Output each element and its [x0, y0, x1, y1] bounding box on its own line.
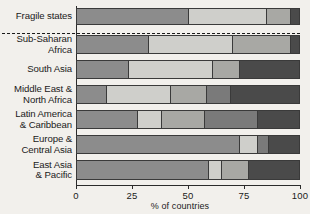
bar-segment[interactable]: [239, 61, 299, 78]
bar-segment[interactable]: [257, 136, 268, 153]
fragile-states-divider: [2, 33, 300, 34]
bar-segment[interactable]: [170, 86, 206, 103]
bar-segment[interactable]: [208, 161, 221, 179]
x-axis-title: % of countries: [0, 201, 310, 211]
bar-row[interactable]: [76, 160, 300, 180]
x-tick-75: [244, 185, 245, 189]
bar-segment[interactable]: [290, 36, 299, 53]
category-label: East Asia & Pacific: [33, 160, 72, 181]
bar-segment[interactable]: [77, 36, 148, 53]
bar-segment[interactable]: [161, 111, 203, 128]
bar-segment[interactable]: [232, 36, 290, 53]
bar-segment[interactable]: [268, 136, 299, 153]
bar-segment[interactable]: [239, 136, 257, 153]
bar-segment[interactable]: [77, 9, 188, 24]
bar-segment[interactable]: [230, 86, 299, 103]
x-tick-50: [188, 185, 189, 189]
bar-row[interactable]: [76, 8, 300, 25]
bar-segment[interactable]: [77, 161, 208, 179]
category-label: Europe & Central Asia: [21, 134, 72, 155]
bar-segment[interactable]: [212, 61, 239, 78]
x-tick-25: [132, 185, 133, 189]
bar-row[interactable]: [76, 135, 300, 154]
bar-segment[interactable]: [204, 111, 257, 128]
bar-segment[interactable]: [290, 9, 299, 24]
x-axis-title-text: % of countries: [151, 201, 209, 211]
stacked-bar-chart: 0255075100 Fragile statesSub-Saharan Afr…: [0, 0, 310, 214]
x-tick-label-0: 0: [73, 190, 78, 201]
x-tick-label-25: 25: [127, 190, 138, 201]
bar-segment[interactable]: [248, 161, 299, 179]
bar-row[interactable]: [76, 85, 300, 104]
category-label: South Asia: [27, 64, 72, 75]
bar-segment[interactable]: [77, 111, 137, 128]
category-label: Middle East & North Africa: [14, 84, 72, 105]
bar-row[interactable]: [76, 110, 300, 129]
bar-segment[interactable]: [77, 86, 106, 103]
x-tick-100: [300, 185, 301, 189]
x-tick-label-50: 50: [183, 190, 194, 201]
bar-segment[interactable]: [266, 9, 290, 24]
category-label: Latin America & Caribbean: [15, 109, 72, 130]
bar-segment[interactable]: [128, 61, 212, 78]
bar-row[interactable]: [76, 35, 300, 54]
bar-segment[interactable]: [148, 36, 232, 53]
bar-segment[interactable]: [221, 161, 248, 179]
category-label: Fragile states: [16, 11, 72, 22]
bar-row[interactable]: [76, 60, 300, 79]
bar-segment[interactable]: [257, 111, 299, 128]
bar-segment[interactable]: [77, 136, 239, 153]
x-tick-0: [76, 185, 77, 189]
bar-segment[interactable]: [77, 61, 128, 78]
bar-segment[interactable]: [206, 86, 230, 103]
bar-segment[interactable]: [137, 111, 161, 128]
x-tick-label-75: 75: [239, 190, 250, 201]
bar-segment[interactable]: [188, 9, 266, 24]
category-label: Sub-Saharan Africa: [17, 34, 72, 55]
x-tick-label-100: 100: [292, 190, 308, 201]
bar-segment[interactable]: [106, 86, 170, 103]
